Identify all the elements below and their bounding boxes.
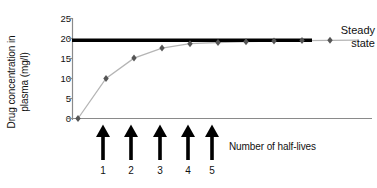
half-life-number-2: 2	[124, 166, 138, 176]
half-life-number-1: 1	[96, 166, 110, 176]
half-life-arrow-5	[205, 125, 219, 161]
data-point-markers	[75, 37, 332, 122]
half-life-arrow-2	[124, 125, 138, 161]
y-axis-ticks	[68, 19, 73, 119]
x-axis-title: Number of half-lives	[229, 141, 316, 152]
half-life-number-5: 5	[205, 166, 219, 176]
steady-state-label: Steady state	[322, 24, 375, 49]
plot-area	[0, 0, 377, 188]
half-life-arrow-1	[96, 125, 110, 161]
half-life-arrow-3	[153, 125, 167, 161]
concentration-curve	[78, 40, 358, 118]
steady-state-label-line-2: state	[322, 37, 375, 50]
data-point-8	[299, 37, 304, 44]
half-life-arrows	[96, 125, 219, 161]
half-life-number-4: 4	[181, 166, 195, 176]
chart-figure: Drug concentration in plasma (mg/l) 25 2…	[0, 0, 377, 188]
steady-state-label-line-1: Steady	[322, 24, 375, 37]
data-point-3	[159, 45, 164, 52]
half-life-number-3: 3	[153, 166, 167, 176]
data-point-2	[131, 55, 136, 62]
half-life-arrow-4	[181, 125, 195, 161]
